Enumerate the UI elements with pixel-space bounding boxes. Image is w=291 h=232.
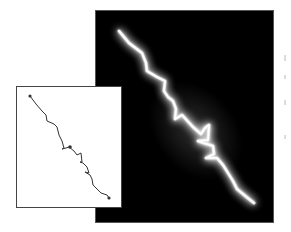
path-trace-inset [16, 86, 122, 208]
marker-end-icon [107, 196, 110, 199]
discharge-trace-graphic [17, 87, 123, 209]
page-edge-marks [284, 55, 287, 145]
marker-start-icon [28, 94, 31, 97]
marker-mid-icon [68, 145, 72, 149]
